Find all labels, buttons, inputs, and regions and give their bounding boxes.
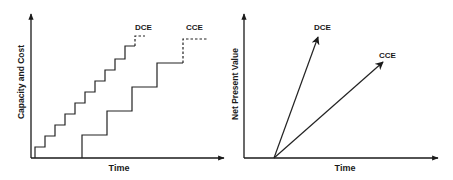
- right-cce-label: CCE: [379, 51, 397, 60]
- figure: DCE CCE Time Capacity and Cost DCE CCE T…: [0, 0, 453, 180]
- left-y-axis-label: Capacity and Cost: [16, 45, 26, 119]
- right-x-axis-label: Time: [335, 163, 356, 173]
- dce-step-line: [35, 46, 135, 158]
- cce-step-line: [82, 63, 183, 158]
- npv-chart: DCE CCE Time Net Present Value: [230, 14, 438, 173]
- right-y-axis-label: Net Present Value: [230, 48, 240, 120]
- dce-npv-arrow: [274, 37, 318, 158]
- cce-npv-arrow: [274, 62, 383, 158]
- left-x-axis-label: Time: [109, 163, 130, 173]
- cce-dashed-step: [183, 39, 208, 63]
- capacity-cost-chart: DCE CCE Time Capacity and Cost: [16, 14, 224, 173]
- left-cce-label: CCE: [186, 23, 204, 32]
- dce-dashed-step: [135, 36, 145, 46]
- right-dce-label: DCE: [314, 23, 332, 32]
- left-dce-label: DCE: [135, 23, 153, 32]
